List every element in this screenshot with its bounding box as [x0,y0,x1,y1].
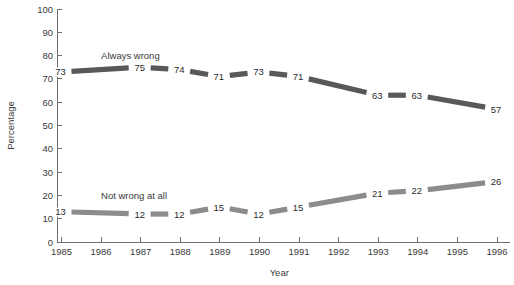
y-axis-tick-label: 90 [42,27,53,38]
x-axis-tick-label: 1988 [170,246,191,257]
x-axis-tick-label: 1989 [209,246,230,257]
x-axis-tick-label: 1993 [368,246,389,257]
y-axis-tick-label: 60 [42,97,53,108]
series-line-segment [190,71,208,74]
y-axis-tick-label: 70 [42,73,53,84]
y-axis-tick-label: 10 [42,213,53,224]
data-point-label: 26 [491,176,502,187]
series-line-segment [230,209,248,212]
y-axis-tick-label: 20 [42,190,53,201]
y-axis-tick-label: 50 [42,120,53,131]
series-line-segment [428,97,486,107]
series-line-segment [190,209,208,212]
x-axis-tick-label: 1990 [249,246,270,257]
series-line-segment [151,68,169,69]
x-axis-tick-label: 1985 [51,246,72,257]
data-point-label: 71 [214,71,225,82]
data-point-label: 57 [491,104,502,115]
series-line-segment [269,209,287,212]
x-axis-tick-label: 1991 [288,246,309,257]
x-axis-title: Year [270,267,289,278]
series-line-segment [309,79,367,93]
data-point-label: 22 [412,185,423,196]
data-point-label: 63 [372,90,383,101]
data-point-label: 12 [174,209,185,220]
data-point-label: 75 [134,62,145,73]
data-point-label: 21 [372,188,383,199]
x-axis-tick-label: 1994 [407,246,428,257]
series-label-not-wrong-at-all: Not wrong at all [101,190,167,201]
x-axis-tick-label: 1986 [91,246,112,257]
data-point-label: 12 [253,209,264,220]
y-axis-tick-label: 30 [42,167,53,178]
data-point-label: 12 [134,209,145,220]
series-line-segment [428,183,485,190]
data-point-label: 74 [174,64,185,75]
data-point-label: 63 [412,90,423,101]
y-axis-tick-label: 80 [42,50,53,61]
series-line-segment [388,191,406,192]
y-axis-tick-label: 40 [42,143,53,154]
data-point-label: 73 [253,66,264,77]
x-axis-tick-label: 1995 [447,246,468,257]
series-line-segment [230,73,248,75]
data-point-label: 13 [55,206,66,217]
data-point-label: 15 [214,202,225,213]
x-axis-tick-label: 1987 [130,246,151,257]
series-label-always-wrong: Always wrong [101,50,160,61]
x-axis-tick-label: 1992 [328,246,349,257]
series-line-segment [71,68,128,71]
data-point-label: 71 [293,71,304,82]
data-point-label: 73 [55,66,66,77]
chart-canvas: 0102030405060708090100198519861987198819… [0,0,514,285]
series-line-segment [71,212,128,214]
data-point-label: 15 [293,202,304,213]
line-chart: 0102030405060708090100198519861987198819… [0,0,514,285]
series-line-segment [309,195,367,205]
y-axis-tick-label: 100 [37,4,53,15]
x-axis-tick-label: 1996 [486,246,507,257]
y-axis-title: Percentage [5,101,16,150]
series-line-segment [269,73,287,75]
